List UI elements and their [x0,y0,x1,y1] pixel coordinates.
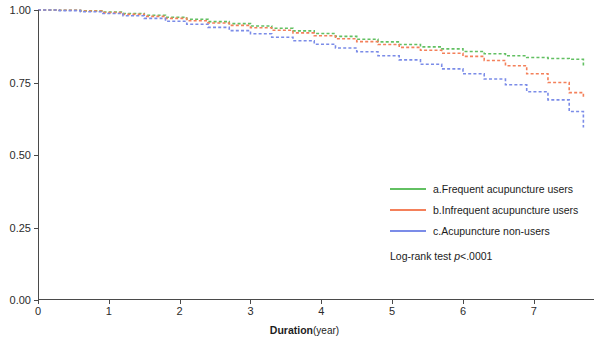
legend-swatch-b [390,209,426,211]
x-tick-mark [534,300,535,304]
x-axis-title: Duration(year) [0,324,609,336]
y-tick-label: 0.25 [10,222,31,234]
legend-label-c: c.Acupuncture non-users [433,225,550,237]
legend-item-b: b.Infrequent acupuncture users [390,199,605,220]
x-tick-label: 5 [389,305,395,317]
series-line-0 [38,10,583,67]
x-tick-label: 3 [247,305,253,317]
legend-swatch-c [390,230,426,232]
legend-label-a: a.Frequent acupuncture users [433,183,573,195]
x-tick-mark [180,300,181,304]
y-tick-label: 0.75 [10,77,31,89]
x-tick-label: 1 [106,305,112,317]
legend-swatch-a [390,188,426,190]
x-tick-label: 4 [318,305,324,317]
y-tick-mark [34,83,38,84]
x-axis-title-text: Duration [270,324,313,336]
series-line-2 [38,10,583,127]
x-tick-mark [463,300,464,304]
y-tick-mark [34,10,38,11]
x-tick-label: 0 [35,305,41,317]
logrank-suffix: <.0001 [460,250,492,262]
x-tick-label: 2 [177,305,183,317]
x-axis-line [38,299,594,300]
y-tick-mark [34,155,38,156]
legend-item-c: c.Acupuncture non-users [390,220,605,241]
x-tick-mark [38,300,39,304]
x-axis-title-unit: (year) [313,325,339,336]
y-tick-label: 0.50 [10,149,31,161]
survival-chart: 0.000.250.500.751.00 01234567 Duration(y… [0,0,609,340]
plot-area: 0.000.250.500.751.00 01234567 [38,10,594,300]
legend: a.Frequent acupuncture users b.Infrequen… [390,178,605,241]
y-tick-label: 0.00 [10,294,31,306]
curve-canvas [38,10,594,300]
x-tick-mark [109,300,110,304]
legend-label-b: b.Infrequent acupuncture users [433,204,578,216]
logrank-prefix: Log-rank test [390,250,454,262]
legend-item-a: a.Frequent acupuncture users [390,178,605,199]
logrank-annotation: Log-rank test p<.0001 [390,250,492,262]
y-tick-mark [34,228,38,229]
y-tick-label: 1.00 [10,4,31,16]
x-tick-mark [250,300,251,304]
x-tick-mark [321,300,322,304]
y-axis-line [38,10,39,300]
x-tick-mark [392,300,393,304]
x-tick-label: 6 [460,305,466,317]
x-tick-label: 7 [531,305,537,317]
